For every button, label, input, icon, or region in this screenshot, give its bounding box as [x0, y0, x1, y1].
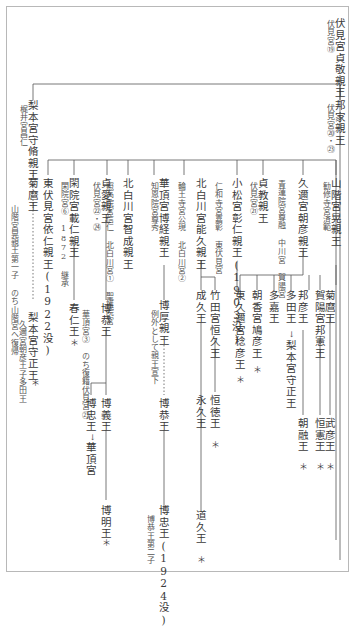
node-hirotada2: 博忠王 [85, 398, 96, 433]
node-yoshihisa: 北白川宮能久親王 [195, 178, 206, 270]
node-asaka: 朝香宮鳩彦王 [251, 290, 262, 359]
node-kikumaro-sub: 山階宮晃親王第一子 のち山階宮へ復帰 [9, 205, 17, 285]
node-hiroyasu2: 博恭王 [158, 398, 169, 433]
node-morimasa-sub: 梶井宮昌仁 [18, 105, 26, 147]
node-sadayoshi: 伏見宮貞敬親王 [334, 18, 345, 99]
node-sadayoshi-sub: 伏見宮⑲ [325, 20, 333, 53]
node-tsunenori: 恒憲王 [314, 418, 325, 453]
node-satonari: 北白川宮智成親王 [122, 178, 133, 270]
node-hirotada: 博忠王(1924没) [158, 505, 169, 626]
node-hirotada-sub: 博恭王第二子 [145, 515, 153, 565]
node-takehiko: 武彦王 [324, 418, 335, 453]
node-asaakira: 朝融王 [297, 418, 308, 453]
node-kuninomiya-sub: 青蓮院宮尊融 中川宮 賀陽宮 [276, 180, 284, 270]
node-tada-target: 梨本宮守正王 [285, 340, 296, 409]
node-hiroatsu: 博厚親王 [158, 300, 169, 346]
node-morimasa2: 梨本宮守正王 [27, 312, 38, 381]
node-higashifushimi: 東伏見宮依仁親王(1922没) [42, 178, 53, 357]
node-sadanori-sub: 伏見宮㉑ [248, 182, 256, 215]
node-hirotada2-target: 華頂宮 [85, 442, 96, 477]
node-kanin: 閑院宮載仁親王 [68, 178, 79, 259]
node-hiroyasu-sub: 華頂宮③ のち復籍伏見宮㉓ [80, 310, 88, 380]
arrow-icon: ↓ [88, 433, 96, 442]
node-kunihiko: 邦彦王 [297, 290, 308, 325]
star-mark: ＊ [298, 462, 307, 471]
node-kacho-sub: 知恩院宮尊秀 [149, 182, 157, 232]
star-mark: ＊ [30, 378, 39, 387]
star-mark: ＊ [235, 375, 244, 384]
node-kikumaro: 菊麿王 [27, 178, 38, 213]
node-naruhisa: 成久王 [195, 290, 206, 325]
node-yamashina-sub: 勧修寺宮済範 [321, 182, 329, 232]
node-takeda: 竹田宮恒久王 [209, 290, 220, 359]
node-michihisa: 道久王 [195, 510, 206, 545]
star-mark: ＊ [252, 365, 261, 374]
node-kuninomiya: 久邇宮朝彦親王 [297, 178, 308, 259]
node-higashikuni: 東久邇宮稔彦王 [234, 290, 245, 371]
star-mark: ＊ [325, 462, 334, 471]
node-tada: 多田王 [285, 290, 296, 325]
node-komatsu-sub: 仁和寺宮嘉彰 東伏見宮 [213, 182, 221, 242]
node-sadanori: 貞教親王 [257, 178, 268, 224]
node-nagahisa: 永久王 [195, 395, 206, 430]
arrow-icon: ↓ [287, 330, 295, 339]
node-takaoo: 多嘉王 [268, 290, 279, 325]
star-mark: ＊ [69, 338, 78, 347]
star-mark: ＊ [315, 462, 324, 471]
node-tsunetoshi: 恒徳王 [209, 395, 220, 430]
node-yamashina: 山階宮晃親王 [330, 178, 341, 247]
node-kikumaro2: 菊麿王 [324, 290, 335, 325]
node-hiroyasu: 博恭王 [100, 303, 111, 338]
node-kuniie-sub: 伏見宮⑳・㉓ [325, 104, 333, 154]
star-mark: ＊ [196, 555, 205, 564]
star-mark: ＊ [101, 538, 110, 547]
node-sadanaru: 貞愛親王 [100, 178, 111, 224]
node-kacho: 華頂宮博経親王 [158, 178, 169, 259]
node-sadanaru-sub: 伏見宮㉒・㉔ [91, 182, 99, 232]
node-hiroyoshi: 博義王 [100, 398, 111, 433]
node-hiroatsu-sub: 例外として親王宣下 [149, 310, 157, 385]
node-haruhito: 春仁王 [68, 303, 79, 338]
star-mark: ＊ [210, 440, 219, 449]
node-yoshihisa-sub: 輪王寺宮公現 北白川宮② [176, 182, 184, 252]
node-hiroaki: 博明王 [100, 505, 111, 540]
node-morimasa2-sub: 久邇宮朝彦王子多田王 [17, 320, 25, 403]
node-morimasa: 梨本宮守脩親王 [27, 100, 38, 181]
node-kaya: 賀陽宮邦憲王 [314, 290, 325, 359]
node-kuniie: 邦家親王 [334, 100, 345, 146]
node-kanin-sub: 閑院宮⑥ 1872 継承 [59, 182, 67, 288]
